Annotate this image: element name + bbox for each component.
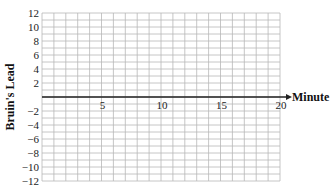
y-tick-label: −10 [22, 161, 40, 173]
x-tick-label: 10 [157, 99, 169, 111]
y-tick-label: −12 [22, 175, 39, 187]
x-axis-label: Minute [292, 90, 330, 104]
chart: 12108642−2−4−6−8−10−12 5101520 Bruin's L… [0, 0, 334, 194]
y-tick-label: −4 [27, 119, 39, 131]
y-tick-label: 10 [28, 21, 40, 33]
x-tick-labels: 5101520 [100, 99, 287, 111]
x-tick-label: 15 [216, 99, 228, 111]
y-tick-label: 8 [34, 35, 40, 47]
x-tick-label: 5 [100, 99, 106, 111]
y-tick-label: 4 [34, 63, 40, 75]
y-tick-label: −6 [27, 133, 39, 145]
y-tick-label: 2 [34, 77, 40, 89]
x-tick-label: 20 [276, 99, 288, 111]
y-axis-label: Bruin's Lead [3, 63, 17, 130]
y-tick-label: 6 [34, 49, 40, 61]
y-tick-label: −8 [27, 147, 39, 159]
y-tick-label: 12 [28, 7, 39, 19]
y-tick-label: −2 [27, 105, 39, 117]
y-tick-labels: 12108642−2−4−6−8−10−12 [22, 7, 40, 187]
